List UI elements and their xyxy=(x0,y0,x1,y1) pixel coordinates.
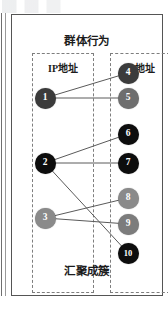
graph-node-6[interactable]: 6 xyxy=(118,124,139,145)
ip-group-left-label: IP地址 xyxy=(33,60,93,75)
graph-node-2[interactable]: 2 xyxy=(35,153,56,174)
cluster-caption: 汇聚成簇 xyxy=(12,262,162,278)
graph-node-1[interactable]: 1 xyxy=(35,88,56,109)
graph-node-label: 7 xyxy=(126,158,131,168)
scan-artifact xyxy=(2,0,122,13)
graph-node-3[interactable]: 3 xyxy=(35,208,56,229)
graph-node-5[interactable]: 5 xyxy=(118,88,139,109)
graph-node-8[interactable]: 8 xyxy=(118,188,139,209)
graph-node-label: 10 xyxy=(124,249,133,258)
group-behavior-title: 群体行为 xyxy=(12,32,162,48)
graph-node-10[interactable]: 10 xyxy=(118,243,139,264)
graph-node-label: 4 xyxy=(126,68,131,78)
figure-frame: 群体行为 IP地址 IP地址 汇聚成簇 xyxy=(11,14,163,296)
adjacent-figure-border xyxy=(1,13,6,296)
graph-node-label: 6 xyxy=(126,129,131,139)
graph-node-label: 9 xyxy=(126,219,131,229)
graph-node-4[interactable]: 4 xyxy=(118,63,139,84)
graph-node-7[interactable]: 7 xyxy=(118,153,139,174)
graph-node-label: 8 xyxy=(126,193,131,203)
graph-node-label: 2 xyxy=(43,158,48,168)
graph-node-label: 5 xyxy=(126,93,131,103)
graph-node-label: 1 xyxy=(43,93,48,103)
graph-node-9[interactable]: 9 xyxy=(118,214,139,235)
graph-node-label: 3 xyxy=(43,213,48,223)
